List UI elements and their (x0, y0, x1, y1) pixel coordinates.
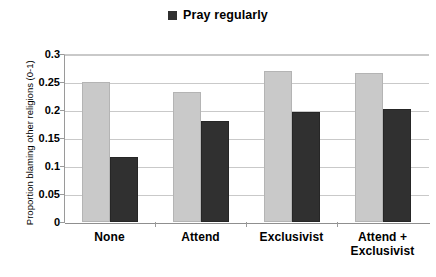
x-tick-mark (246, 222, 247, 227)
y-axis-ticks: 00.050.10.150.20.250.3 (0, 0, 60, 277)
bar (110, 157, 138, 222)
bars-layer (64, 54, 428, 222)
chart-legend: Pray regularly (0, 4, 436, 26)
bar (82, 82, 110, 222)
y-tick-label: 0.1 (4, 161, 60, 172)
bar (355, 73, 383, 222)
x-axis-category-label-line: Attend + (337, 230, 428, 244)
bar (292, 112, 320, 222)
bar (201, 121, 229, 222)
y-tick-label: 0.15 (4, 133, 60, 144)
legend-label: Pray regularly (183, 9, 268, 22)
x-axis-category-label: None (64, 230, 155, 244)
y-tick-label: 0.3 (4, 49, 60, 60)
x-tick-mark (337, 222, 338, 227)
x-axis-line (65, 223, 430, 224)
y-tick-label: 0.05 (4, 189, 60, 200)
x-tick-mark (155, 222, 156, 227)
bar (173, 92, 201, 222)
y-tick-label: 0.25 (4, 77, 60, 88)
x-axis-category-label-line: Exclusivist (246, 230, 337, 244)
legend-swatch-icon (168, 11, 177, 20)
x-axis-category-label-line: None (64, 230, 155, 244)
x-axis-category-label-line: Attend (155, 230, 246, 244)
x-axis-category-label: Exclusivist (246, 230, 337, 244)
bar (264, 71, 292, 222)
legend-entry-pray-regularly: Pray regularly (168, 9, 268, 22)
bar (383, 109, 411, 222)
y-tick-label: 0 (4, 217, 60, 228)
x-axis-category-label: Attend (155, 230, 246, 244)
bar-chart: Pray regularly Proportion blaming other … (0, 0, 436, 277)
x-axis-category-label: Attend +Exclusivist (337, 230, 428, 258)
y-tick-label: 0.2 (4, 105, 60, 116)
x-axis-category-label-line: Exclusivist (337, 244, 428, 258)
